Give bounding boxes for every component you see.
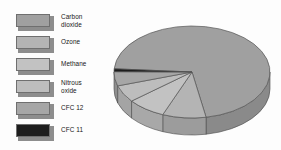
legend-label-carbon-dioxide: Carbon dioxide [61,13,82,28]
legend-item-cfc-12[interactable]: CFC 12 [16,101,108,123]
legend-swatch-fill-cfc-12 [16,102,50,115]
legend-swatch-fill-methane [16,58,50,71]
legend-swatch-fill-cfc-11 [16,124,50,137]
chart-legend: Carbon dioxide Ozone Methane Nitrous oxi… [16,13,108,145]
legend-swatch-carbon-dioxide [16,14,52,29]
legend-label-ozone: Ozone [61,35,80,46]
legend-swatch-cfc-11 [16,124,52,139]
legend-item-ozone[interactable]: Ozone [16,35,108,57]
legend-item-cfc-11[interactable]: CFC 11 [16,123,108,145]
legend-swatch-fill-ozone [16,36,50,49]
pie-chart[interactable] [108,14,276,142]
legend-label-methane: Methane [61,57,86,68]
legend-swatch-ozone [16,36,52,51]
pie-chart-svg [108,14,276,142]
legend-item-methane[interactable]: Methane [16,57,108,79]
legend-swatch-methane [16,58,52,73]
legend-label-nitrous-oxide: Nitrous oxide [61,79,82,94]
legend-label-cfc-11: CFC 11 [61,123,83,134]
legend-swatch-fill-nitrous-oxide [16,80,50,93]
legend-swatch-cfc-12 [16,102,52,117]
pie-chart-figure: Carbon dioxide Ozone Methane Nitrous oxi… [0,0,281,150]
legend-swatch-nitrous-oxide [16,80,52,95]
legend-label-cfc-12: CFC 12 [61,101,84,112]
legend-item-carbon-dioxide[interactable]: Carbon dioxide [16,13,108,35]
legend-swatch-fill-carbon-dioxide [16,14,50,27]
legend-item-nitrous-oxide[interactable]: Nitrous oxide [16,79,108,101]
